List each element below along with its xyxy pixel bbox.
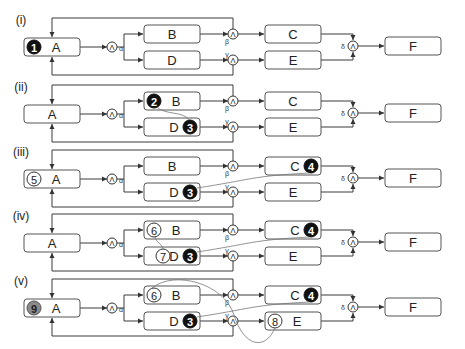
step-number: 3 <box>187 251 193 263</box>
gate-label: α <box>119 45 123 52</box>
node-a: A <box>24 105 80 123</box>
step-marker-6: 6 <box>147 223 161 237</box>
node-label: C <box>290 159 299 174</box>
gate-delta: Λδ <box>341 173 358 183</box>
gate-delta: Λδ <box>341 302 358 312</box>
node-e: E <box>265 118 321 136</box>
edge-alpha-d <box>124 179 143 192</box>
gate-alpha: Λα <box>107 174 123 184</box>
edge-e-delta <box>321 184 353 192</box>
node-a: A <box>24 234 80 252</box>
gate-label: δ <box>341 175 345 182</box>
node-e: E <box>265 247 321 265</box>
gate-label: α <box>119 177 123 184</box>
step-marker-4: 4 <box>304 288 318 302</box>
edge-c-delta <box>321 295 353 301</box>
gate-symbol: Λ <box>109 110 114 119</box>
node-label: D <box>169 185 178 200</box>
edge-c-delta <box>321 166 353 172</box>
panel-5: (v)ABDCEFΛαΛβΛγΛδ96348 <box>14 274 441 343</box>
node-c: C <box>265 25 321 43</box>
gate-label: γ <box>225 312 229 320</box>
panel-label: (i) <box>16 13 27 27</box>
gate-symbol: Λ <box>350 303 355 312</box>
step-marker-2: 2 <box>147 94 161 108</box>
gate-symbol: Λ <box>350 42 355 51</box>
edge-e-delta <box>321 119 353 127</box>
gate-label: γ <box>225 247 229 255</box>
step-marker-8: 8 <box>268 314 282 328</box>
step-marker-7: 7 <box>156 249 170 263</box>
node-label: C <box>290 288 299 303</box>
step-number: 8 <box>272 316 278 328</box>
gate-label: δ <box>341 110 345 117</box>
gate-delta: Λδ <box>341 108 358 118</box>
gate-label: β <box>225 38 229 46</box>
step-number: 9 <box>31 303 37 315</box>
node-label: D <box>169 249 178 264</box>
gate-alpha: Λα <box>107 303 123 313</box>
workflow-diagram: (i)ABDCEFΛαΛβΛγΛδ1(ii)ABDCEFΛαΛβΛγΛδ23(i… <box>0 0 465 349</box>
node-b: B <box>144 157 200 175</box>
step-number: 5 <box>31 174 37 186</box>
node-label: C <box>290 223 299 238</box>
step-marker-1: 1 <box>27 40 41 54</box>
gate-alpha: Λα <box>107 109 123 119</box>
panel-1: (i)ABDCEFΛαΛβΛγΛδ1 <box>16 13 441 75</box>
gate-alpha: Λα <box>107 238 123 248</box>
edge-c-delta <box>321 230 353 236</box>
node-label: A <box>48 236 57 251</box>
step-marker-9: 9 <box>27 301 41 315</box>
step-marker-5: 5 <box>27 172 41 186</box>
gate-gamma: Λγ <box>225 312 238 327</box>
node-label: A <box>48 107 57 122</box>
node-f: F <box>385 233 441 251</box>
gate-symbol: Λ <box>350 174 355 183</box>
edge-e-delta <box>321 248 353 256</box>
node-label: D <box>167 53 176 68</box>
gate-symbol: Λ <box>230 252 235 261</box>
node-f: F <box>385 104 441 122</box>
step-marker-3: 3 <box>183 249 197 263</box>
gate-beta: Λβ <box>225 96 238 113</box>
gate-beta: Λβ <box>225 290 238 307</box>
panel-2: (ii)ABDCEFΛαΛβΛγΛδ23 <box>14 80 441 142</box>
edge-alpha-d <box>124 47 143 60</box>
step-marker-3: 3 <box>183 314 197 328</box>
node-d: D <box>144 51 200 69</box>
gate-gamma: Λγ <box>225 51 238 66</box>
gate-label: δ <box>341 43 345 50</box>
edge-c-delta <box>321 34 353 40</box>
gate-label: δ <box>341 304 345 311</box>
step-number: 4 <box>308 161 315 173</box>
gate-label: γ <box>225 183 229 191</box>
gate-label: γ <box>225 51 229 59</box>
gate-symbol: Λ <box>230 162 235 171</box>
gate-symbol: Λ <box>230 123 235 132</box>
gate-delta: Λδ <box>341 41 358 51</box>
node-label: B <box>168 159 177 174</box>
gate-gamma: Λγ <box>225 247 238 262</box>
node-label: B <box>168 27 177 42</box>
panel-label: (ii) <box>14 80 27 94</box>
panel-4: (iv)ABDCEFΛαΛβΛγΛδ6734 <box>13 209 441 271</box>
gate-symbol: Λ <box>230 30 235 39</box>
edge-alpha-d <box>124 114 143 127</box>
gate-label: α <box>119 241 123 248</box>
gate-label: δ <box>341 239 345 246</box>
gate-symbol: Λ <box>230 226 235 235</box>
step-marker-6: 6 <box>147 288 161 302</box>
node-label: F <box>409 106 417 121</box>
gate-alpha: Λα <box>107 42 123 52</box>
gate-label: α <box>119 112 123 119</box>
step-marker-3: 3 <box>183 120 197 134</box>
node-label: A <box>52 40 61 55</box>
edge-e-delta <box>321 313 353 321</box>
step-number: 2 <box>151 96 157 108</box>
gate-beta: Λβ <box>225 29 238 46</box>
gate-label: β <box>225 234 229 242</box>
node-f: F <box>385 298 441 316</box>
node-b: B <box>144 25 200 43</box>
panel-label: (iii) <box>13 145 29 159</box>
node-f: F <box>385 169 441 187</box>
